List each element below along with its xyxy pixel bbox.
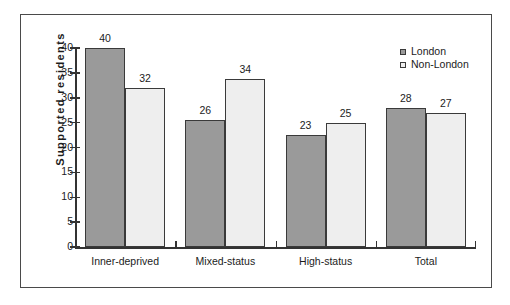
legend-item: London [400,45,469,58]
chart-frame: Supported residents 0510152025303540 403… [20,14,492,288]
bar-value-label: 40 [99,32,111,44]
bar-london [85,48,125,247]
bar-chart-figure: Supported residents 0510152025303540 403… [0,0,510,305]
bar-value-label: 27 [440,97,452,109]
bar-value-label: 28 [400,92,412,104]
legend-label: Non-London [411,58,469,71]
legend-item: Non-London [400,58,469,71]
x-axis-category-label: High-status [299,255,352,267]
bar-non-london [326,123,366,247]
bar-london [185,120,225,247]
bar-non-london [225,79,265,247]
bar-london [286,135,326,247]
bar-non-london [426,113,466,247]
x-axis-category-label: Mixed-status [196,255,256,267]
x-axis-category-label: Inner-deprived [91,255,159,267]
legend-swatch-icon [400,49,406,55]
bar-value-label: 34 [240,63,252,75]
bar-value-label: 26 [200,104,212,116]
chart-legend: LondonNon-London [397,43,473,73]
bar-value-label: 23 [300,119,312,131]
bar-value-label: 25 [340,107,352,119]
x-axis-category-label: Total [415,255,437,267]
bar-non-london [125,88,165,247]
legend-label: London [411,45,446,58]
bar-london [386,108,426,247]
legend-swatch-icon [400,62,406,68]
bar-value-label: 32 [139,72,151,84]
